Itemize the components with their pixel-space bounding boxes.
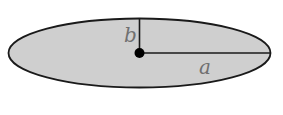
label-a: a xyxy=(199,55,211,79)
ellipse-diagram: b a xyxy=(0,0,283,115)
label-b: b xyxy=(124,23,137,47)
center-point xyxy=(135,48,145,58)
